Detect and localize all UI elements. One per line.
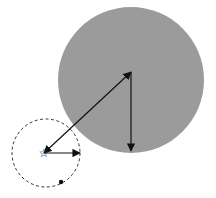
star-icon: ☆: [39, 146, 50, 160]
diagram-canvas: ☆: [0, 0, 216, 198]
small-dot: [59, 180, 63, 184]
